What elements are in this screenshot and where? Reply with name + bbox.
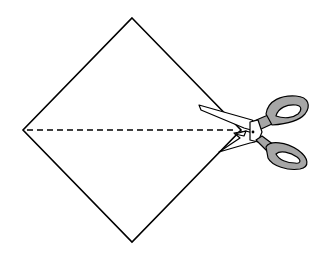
diagram-canvas [0,0,332,254]
cut-paper-diagram [0,0,332,254]
scissors-pivot-screw [252,131,255,134]
